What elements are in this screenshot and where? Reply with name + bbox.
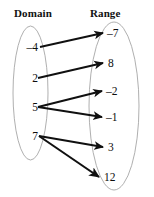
range-value-5: 12 <box>104 171 116 183</box>
domain-value-1: 2 <box>32 72 38 84</box>
range-value-4: 3 <box>108 141 114 153</box>
domain-value-3: 7 <box>32 130 38 142</box>
range-oval <box>89 22 139 190</box>
domain-value-2: 5 <box>32 101 38 113</box>
mapping-arrow-7-to-12 <box>39 136 99 177</box>
range-value-2: –2 <box>106 85 118 97</box>
mapping-arrow-2-to-8 <box>38 63 103 78</box>
domain-value-0: –4 <box>27 41 39 53</box>
mapping-arrow-neg4-to-neg7 <box>40 33 103 47</box>
diagram-canvas <box>0 0 154 197</box>
range-value-3: –1 <box>106 111 118 123</box>
range-value-1: 8 <box>108 57 114 69</box>
range-value-0: –7 <box>107 27 119 39</box>
mapping-diagram-figure: Domain Range –4 2 5 7 –7 8 –2 –1 3 12 <box>0 0 154 197</box>
